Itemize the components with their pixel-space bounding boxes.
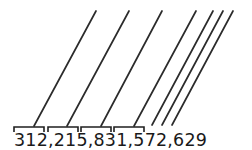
place-value-diagram-svg: 312,215,831,572,629 xyxy=(0,0,252,150)
leader-line-4 xyxy=(134,11,196,126)
leader-lines-group xyxy=(34,11,233,126)
leader-line-1 xyxy=(34,11,96,126)
leader-line-5 xyxy=(152,11,213,125)
leader-line-6 xyxy=(162,11,223,125)
figure-canvas: 312,215,831,572,629 xyxy=(0,0,252,150)
number-text: 312,215,831,572,629 xyxy=(14,130,207,150)
leader-line-2 xyxy=(67,11,129,126)
leader-line-3 xyxy=(101,11,162,126)
leader-line-7 xyxy=(172,11,233,125)
